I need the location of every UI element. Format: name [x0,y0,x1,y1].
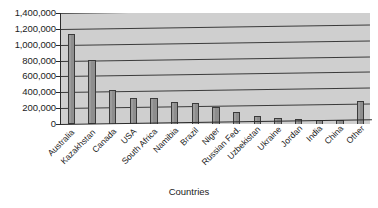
bar [130,98,137,124]
gridline [61,56,370,62]
bar [192,103,199,124]
y-axis-tick-label: 600,000 [0,71,56,81]
y-axis-tick-mark [56,61,60,62]
bar [171,102,178,124]
gridline [61,40,370,46]
gridline [61,88,370,94]
gridline [61,13,370,14]
bar [68,34,75,124]
y-axis-tick-mark [56,45,60,46]
bar [150,98,157,124]
gridline [61,24,370,30]
y-axis-tick-label: 800,000 [0,56,56,66]
y-axis-tick-label: 1,000,000 [0,40,56,50]
y-axis-tick-mark [56,29,60,30]
y-axis-tick-mark [56,76,60,77]
gridline [61,72,370,78]
y-axis-tick-mark [56,108,60,109]
y-axis-tick-label: 1,200,000 [0,24,56,34]
y-axis-tick-label: 200,000 [0,103,56,113]
bar [109,90,116,124]
x-axis-category-labels: AustraliaKazakhstanCanadaUSASouth Africa… [0,124,378,186]
x-axis-title: Countries [0,186,378,197]
bar [88,60,95,124]
y-axis-tick-mark [56,92,60,93]
bar-chart: 0200,000400,000600,000800,0001,000,0001,… [0,0,378,208]
y-axis-tick-mark [56,13,60,14]
plot-inner [61,13,370,124]
y-axis-tick-label: 400,000 [0,87,56,97]
y-axis-tick-label: 1,400,000 [0,8,56,18]
plot-area [60,13,370,124]
y-axis-tick-mark [56,124,60,125]
